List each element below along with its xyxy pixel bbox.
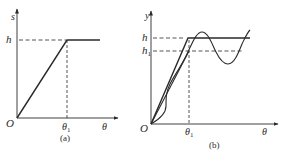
y-axis-label: s [11, 11, 15, 22]
origin-label: O [140, 122, 148, 134]
theta1-label: θ1 [185, 126, 194, 139]
x-axis-label: θ [102, 121, 107, 132]
y-axis-label: y [144, 10, 150, 21]
vibration-response-curve [151, 30, 250, 124]
origin-label: O [6, 117, 14, 129]
caption-b: (b) [209, 140, 220, 150]
h-label: h [6, 33, 12, 45]
displacement-curve [17, 40, 100, 118]
panel-a: s h O θ1 θ (a) [6, 9, 118, 143]
diagram-canvas: s h O θ1 θ (a) y h h1 O θ1 θ (b) [0, 0, 282, 151]
caption-a: (a) [60, 133, 70, 143]
panel-b: y h h1 O θ1 θ (b) [140, 10, 278, 150]
h1-label: h1 [142, 44, 152, 58]
x-axis-label: θ [262, 126, 267, 137]
h-label: h [142, 31, 148, 43]
